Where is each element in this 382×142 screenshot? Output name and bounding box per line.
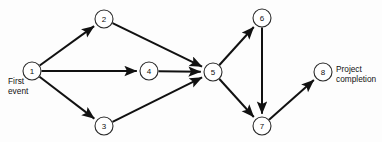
edge-2-to-5 [113,23,202,67]
node-label-7: 7 [260,122,265,131]
node-label-3: 3 [102,122,107,131]
edge-1-to-3 [40,77,95,119]
annotation-project-completion: Project completion [336,64,376,84]
edge-1-to-2 [40,26,94,65]
node-label-4: 4 [147,67,152,76]
node-8[interactable]: 8 [314,63,332,81]
network-canvas: 12345678 [0,0,382,142]
edges-group [40,23,314,122]
node-label-5: 5 [211,68,216,77]
node-5[interactable]: 5 [204,63,222,81]
node-label-6: 6 [260,14,265,23]
edge-4-to-5 [158,71,200,72]
node-3[interactable]: 3 [95,117,113,135]
node-label-8: 8 [321,68,326,77]
network-diagram: 12345678 First event Project completion [0,0,382,142]
edge-5-to-6 [219,27,253,65]
node-4[interactable]: 4 [140,62,158,80]
node-label-1: 1 [30,67,35,76]
node-2[interactable]: 2 [95,10,113,28]
node-label-2: 2 [102,15,107,24]
annotation-first-event: First event [8,76,28,96]
edge-3-to-5 [113,77,203,121]
edge-7-to-8 [269,80,314,120]
edge-5-to-7 [219,79,253,117]
node-6[interactable]: 6 [253,9,271,27]
node-7[interactable]: 7 [253,117,271,135]
